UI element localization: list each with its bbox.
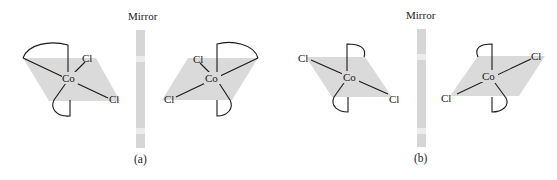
- atom-co: Co: [343, 71, 356, 83]
- atom-co: Co: [205, 72, 218, 84]
- atom-cl-upper: Cl: [193, 53, 203, 65]
- atom-cl-right: Cl: [389, 93, 399, 105]
- panel-b: Co Cl Cl Mirror Co Cl Cl (b): [298, 9, 545, 165]
- atom-cl-lower: Cl: [109, 93, 119, 105]
- mirror-highlight: [417, 54, 426, 60]
- atom-cl-upper: Cl: [531, 50, 541, 62]
- atom-co: Co: [62, 72, 75, 84]
- mirror-highlight: [136, 128, 145, 134]
- molecule-a-left: Co Cl Cl: [23, 43, 120, 116]
- mirror-highlight: [417, 128, 426, 134]
- molecule-a-right: Co Cl Cl: [162, 43, 258, 116]
- molecule-b-right: Co Cl Cl: [441, 44, 545, 112]
- atom-cl-left: Cl: [298, 52, 308, 64]
- molecule-b-left: Co Cl Cl: [298, 44, 399, 112]
- caption-a: (a): [134, 153, 147, 166]
- mirror-highlight: [136, 56, 145, 62]
- mirror-image-isomers-diagram: Co Cl Cl Mirror Co Cl Cl (a): [0, 0, 557, 180]
- panel-a: Co Cl Cl Mirror Co Cl Cl (a): [23, 10, 258, 166]
- caption-b: (b): [414, 152, 428, 165]
- atom-cl-lower: Cl: [441, 92, 451, 104]
- mirror-label-b: Mirror: [406, 9, 436, 21]
- mirror-label-a: Mirror: [128, 10, 158, 22]
- atom-cl-lower: Cl: [164, 93, 174, 105]
- atom-cl-upper: Cl: [82, 52, 92, 64]
- atom-co: Co: [482, 70, 495, 82]
